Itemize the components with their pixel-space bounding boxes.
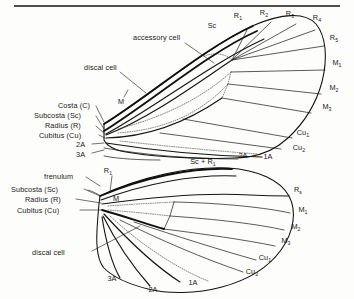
frenulum-bristle [88,190,101,196]
vein-r3 [232,24,296,60]
discal-cell-median-boundary [118,84,228,133]
figure-page: Costa (C) Subcosta (Sc) Radius (R) Cubit… [0,0,354,299]
vein-cu2 [120,220,243,272]
leader-r1 [110,176,112,192]
leader-discal-cell [92,226,140,251]
leader-subcosta [84,189,100,196]
label-m2: M2 [329,83,338,93]
label-subcosta: Subcosta (Sc) [34,111,81,120]
label-m3: M3 [322,102,331,112]
label-r4: R4 [313,13,321,23]
leader-discal-cell [120,72,146,93]
leader-accessory-cell [185,43,214,63]
label-cu2: Cu2 [293,143,306,153]
hindwing-left-label-column: frenulum Subcosta (Sc) Radius (R) Cubitu… [11,172,73,215]
vein-3a [104,156,160,160]
label-r1: R1 [234,11,242,21]
label-accessory-cell: accessory cell [133,33,181,42]
vestigial-anal-fold [110,216,208,281]
vein-m1 [174,202,290,213]
wing-venation-diagram: Costa (C) Subcosta (Sc) Radius (R) Cubit… [0,0,354,299]
discal-cell-outer-boundary [222,72,231,98]
label-subcosta-hind: Subcosta (Sc) [11,185,58,194]
label-3a: 3A [76,150,85,159]
label-discal-cell-hind: discal cell [32,248,65,257]
leader-costa [96,106,104,122]
leader-2a [92,143,104,144]
label-cu1-hind: Cu1 [259,253,272,263]
leader-frenulum [86,177,100,186]
label-sc: Sc [208,21,217,30]
label-2a: 2A [76,140,85,149]
label-2a-margin: 2A [238,151,247,160]
vein-radius-stem [106,60,232,135]
label-r2: R2 [260,8,268,18]
discal-cell-upper-boundary [118,72,231,129]
forewing-inner-labels: accessory cell discal cell M [84,33,181,106]
leader-3a [92,150,104,153]
label-cubitus: Cubitus (Cu) [39,131,81,140]
vein-1a [104,214,180,282]
label-m3-hind: M3 [281,236,290,246]
vein-sc-plus-r1 [100,169,232,196]
vein-cu2 [160,133,281,149]
label-cubitus-hind: Cubitus (Cu) [17,206,59,215]
forewing-group [92,16,325,160]
label-cu2-hind: Cu2 [246,267,259,277]
vein-cu1 [183,119,292,138]
label-m2-hind: M2 [291,222,300,232]
label-1a: 1A [263,152,272,161]
vein-m1 [231,70,325,72]
label-m1-hind: M1 [298,205,307,215]
vein-subcosta [104,31,257,131]
vein-m3 [222,98,311,113]
label-radius-hind: Radius (R) [25,195,61,204]
label-m1: M1 [332,58,341,68]
label-r5: R5 [330,33,338,43]
forewing-margin-labels: Sc R1 R2 R3 R4 R5 M1 M2 M3 Cu1 Cu2 [190,8,341,167]
label-rs: Rs [294,185,302,195]
vein-m2 [228,84,321,94]
forewing-left-label-column: Costa (C) Subcosta (Sc) Radius (R) Cubit… [34,101,90,159]
label-media-hind: M [113,194,119,203]
label-cu1: Cu1 [297,128,310,138]
label-3a-hind: 3A [107,274,116,283]
label-sc-plus-r1: Sc + R1 [190,157,216,167]
label-1a-hind: 1A [188,278,197,287]
label-discal-cell: discal cell [84,63,117,72]
label-radius: Radius (R) [45,121,81,130]
label-costa: Costa (C) [58,101,90,110]
label-frenulum: frenulum [44,172,73,181]
vein-m2 [170,216,284,230]
label-r1-hind: R1 [104,166,112,176]
leader-radius [76,199,101,203]
label-r3: R3 [286,9,294,19]
label-2a-hind: 2A [148,285,157,294]
label-media: M [118,97,124,106]
leader-media [124,90,128,97]
